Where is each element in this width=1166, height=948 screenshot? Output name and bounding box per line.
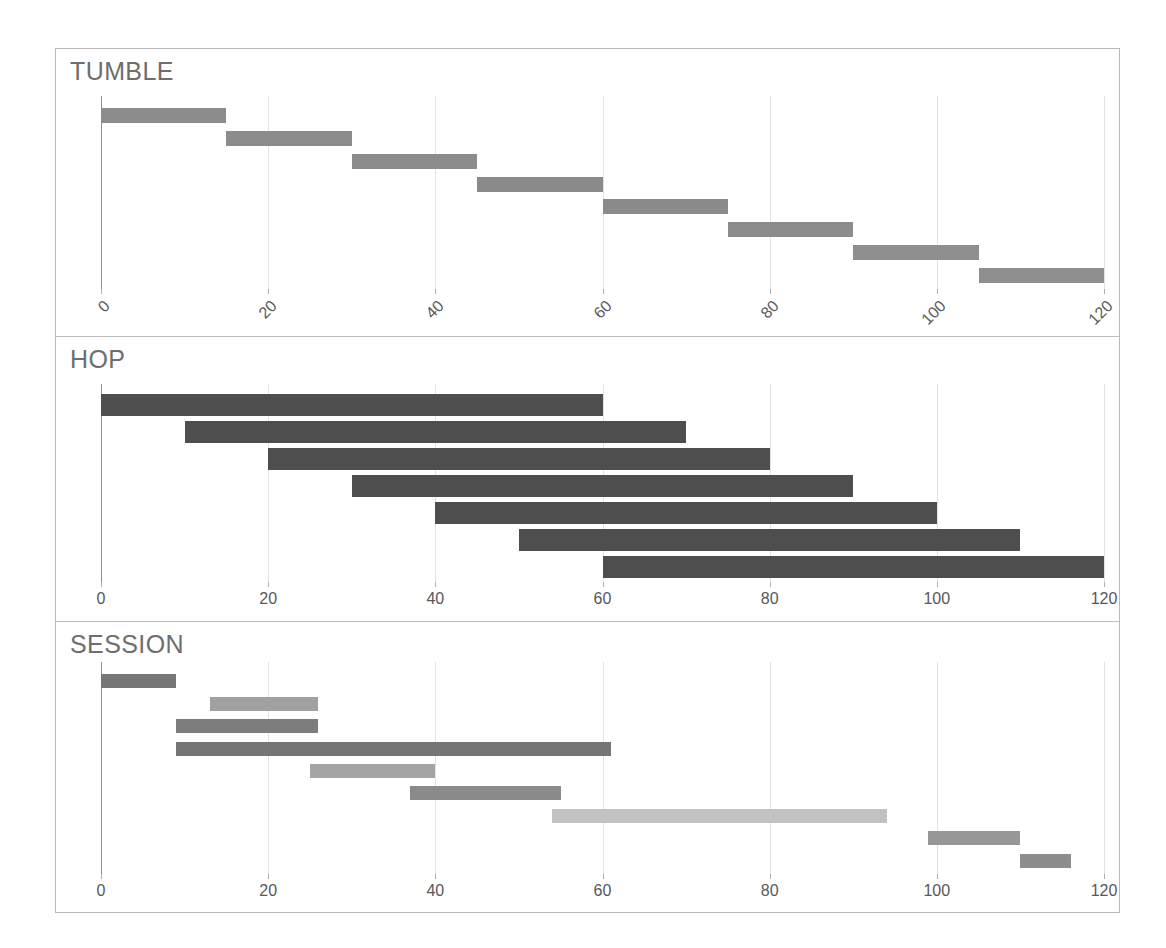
window-bar xyxy=(176,742,611,756)
gridline xyxy=(603,96,604,289)
window-bar xyxy=(853,245,978,260)
window-bar xyxy=(352,475,854,497)
x-tick-mark xyxy=(268,582,269,587)
window-bar xyxy=(1020,854,1070,868)
y-axis-spine xyxy=(101,662,102,874)
window-bar xyxy=(928,831,1020,845)
x-tick-label: 120 xyxy=(1062,297,1117,336)
window-bar xyxy=(435,502,937,524)
window-bar xyxy=(477,177,602,192)
x-tick-mark xyxy=(101,289,102,294)
gridline xyxy=(770,96,771,289)
x-tick-label: 60 xyxy=(573,882,633,900)
window-bar xyxy=(352,154,477,169)
x-tick-mark xyxy=(770,582,771,587)
panel-session: SESSION 020406080100120 xyxy=(56,621,1119,913)
x-tick-mark xyxy=(101,874,102,879)
x-tick-mark xyxy=(603,582,604,587)
plot-area-session: 020406080100120 xyxy=(56,622,1119,913)
x-tick-mark xyxy=(435,874,436,879)
x-tick-mark xyxy=(770,874,771,879)
window-bar xyxy=(101,394,603,416)
x-tick-label: 20 xyxy=(238,882,298,900)
gridline xyxy=(603,662,604,874)
gridline xyxy=(268,662,269,874)
x-tick-mark xyxy=(937,582,938,587)
y-axis-spine xyxy=(101,96,102,289)
plot-area-tumble: 020406080100120 xyxy=(56,49,1119,336)
x-tick-mark xyxy=(1104,582,1105,587)
x-tick-label: 100 xyxy=(907,590,967,608)
panel-tumble: TUMBLE 020406080100120 xyxy=(56,49,1119,336)
window-bar xyxy=(176,719,318,733)
window-bar xyxy=(185,421,687,443)
x-tick-label: 0 xyxy=(71,882,131,900)
x-tick-label: 40 xyxy=(393,297,448,336)
window-bar xyxy=(410,786,560,800)
window-bar xyxy=(101,108,226,123)
x-tick-label: 40 xyxy=(405,590,465,608)
x-tick-mark xyxy=(1104,289,1105,294)
x-tick-label: 100 xyxy=(907,882,967,900)
x-tick-label: 120 xyxy=(1074,590,1119,608)
window-bar xyxy=(552,809,886,823)
x-tick-mark xyxy=(435,289,436,294)
gridline xyxy=(1104,96,1105,289)
window-bar xyxy=(101,674,176,688)
gridline xyxy=(937,384,938,582)
x-tick-mark xyxy=(937,874,938,879)
x-tick-label: 80 xyxy=(740,590,800,608)
window-bar xyxy=(310,764,435,778)
panel-hop: HOP 020406080100120 xyxy=(56,336,1119,621)
window-bar xyxy=(210,697,319,711)
gridline xyxy=(435,662,436,874)
x-tick-mark xyxy=(101,582,102,587)
x-tick-label: 80 xyxy=(727,297,782,336)
x-tick-label: 0 xyxy=(71,590,131,608)
window-bar xyxy=(603,556,1105,578)
gridline xyxy=(1104,662,1105,874)
gridline xyxy=(435,96,436,289)
x-tick-mark xyxy=(268,874,269,879)
window-bar xyxy=(979,268,1104,283)
window-bar xyxy=(519,529,1021,551)
x-tick-mark xyxy=(603,874,604,879)
x-tick-mark xyxy=(268,289,269,294)
window-bar xyxy=(268,448,770,470)
x-tick-mark xyxy=(603,289,604,294)
x-tick-label: 60 xyxy=(573,590,633,608)
x-tick-label: 80 xyxy=(740,882,800,900)
gridline xyxy=(268,96,269,289)
window-bar xyxy=(603,199,728,214)
x-tick-mark xyxy=(937,289,938,294)
window-bar xyxy=(226,131,351,146)
x-tick-mark xyxy=(1104,874,1105,879)
plot-area-hop: 020406080100120 xyxy=(56,337,1119,621)
x-tick-label: 100 xyxy=(894,297,949,336)
x-tick-label: 0 xyxy=(59,297,114,336)
x-tick-mark xyxy=(770,289,771,294)
x-tick-label: 20 xyxy=(238,590,298,608)
chart-figure: TUMBLE 020406080100120 HOP 0204060801001… xyxy=(55,48,1120,913)
x-tick-label: 120 xyxy=(1074,882,1119,900)
window-bar xyxy=(728,222,853,237)
x-tick-label: 20 xyxy=(226,297,281,336)
x-tick-label: 40 xyxy=(405,882,465,900)
x-tick-label: 60 xyxy=(560,297,615,336)
gridline xyxy=(770,662,771,874)
x-tick-mark xyxy=(435,582,436,587)
gridline xyxy=(1104,384,1105,582)
